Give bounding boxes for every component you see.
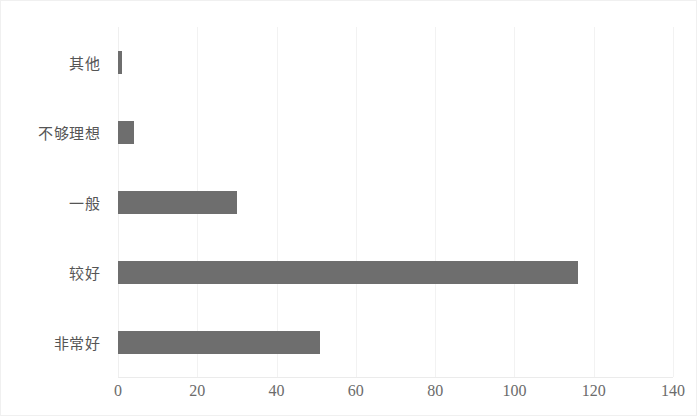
- y-axis-label-4: 非常好: [1, 307, 109, 377]
- y-axis-label-0: 其他: [1, 27, 109, 97]
- bar: [118, 261, 578, 284]
- x-axis-tick-40: 40: [269, 382, 285, 400]
- x-axis-line: [118, 377, 673, 378]
- plot-area: [118, 27, 673, 377]
- x-axis-tick-120: 120: [582, 382, 606, 400]
- x-axis-tick-20: 20: [189, 382, 205, 400]
- bar: [118, 51, 122, 74]
- bar-row: [118, 97, 673, 167]
- bar-row: [118, 167, 673, 237]
- gridline-140: [673, 27, 674, 377]
- y-axis-label-2: 一般: [1, 167, 109, 237]
- x-axis-tick-0: 0: [114, 382, 122, 400]
- x-axis-tick-60: 60: [348, 382, 364, 400]
- bar-row: [118, 237, 673, 307]
- x-axis-tick-80: 80: [427, 382, 443, 400]
- bar-chart-figure: 其他不够理想一般较好非常好 020406080100120140: [0, 0, 697, 416]
- x-axis-tick-100: 100: [502, 382, 526, 400]
- bar: [118, 191, 237, 214]
- bar-row: [118, 27, 673, 97]
- x-axis-tick-labels: 020406080100120140: [118, 382, 673, 406]
- bar: [118, 121, 134, 144]
- y-axis-label-3: 较好: [1, 237, 109, 307]
- y-axis-category-labels: 其他不够理想一般较好非常好: [1, 27, 109, 377]
- y-axis-label-1: 不够理想: [1, 97, 109, 167]
- bar-row: [118, 307, 673, 377]
- x-axis-tick-140: 140: [661, 382, 685, 400]
- bar: [118, 331, 320, 354]
